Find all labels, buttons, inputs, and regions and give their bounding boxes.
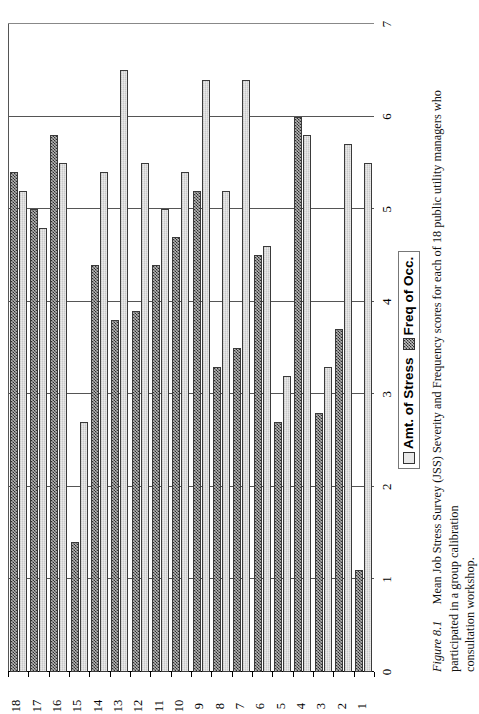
value-axis-label-4: 4 (379, 291, 395, 313)
category-axis-label-13: 13 (111, 693, 126, 714)
bar-freq-of-occ (10, 172, 18, 672)
bar-group (191, 24, 211, 672)
bar-group (293, 24, 313, 672)
bar-group (354, 24, 374, 672)
bar-group (69, 24, 89, 672)
value-axis-label-6: 6 (379, 106, 395, 128)
figure-caption-line2: consultation workshop. (462, 32, 479, 672)
bar-freq-of-occ (152, 265, 160, 672)
bar-freq-of-occ (335, 330, 343, 673)
bar-freq-of-occ (274, 422, 282, 672)
category-axis-label-18: 18 (9, 693, 24, 714)
bar-group (110, 24, 130, 672)
bar-freq-of-occ (233, 348, 241, 672)
bar-group (49, 24, 69, 672)
bar-group (150, 24, 170, 672)
rotated-figure-container: 01234567 123456789101112131415161718 Amt… (0, 0, 380, 714)
bar-amt-of-stress (181, 172, 189, 672)
category-tick (171, 672, 172, 677)
category-axis-label-9: 9 (192, 693, 207, 714)
bar-amt-of-stress (242, 80, 250, 672)
bar-amt-of-stress (344, 144, 352, 672)
bar-freq-of-occ (30, 209, 38, 672)
bar-group (272, 24, 292, 672)
bar-freq-of-occ (111, 320, 119, 672)
chart-legend: Amt. of Stress Freq of Occ. (398, 251, 420, 469)
value-axis-label-3: 3 (379, 383, 395, 405)
bar-group (232, 24, 252, 672)
category-axis-label-6: 6 (253, 693, 268, 714)
category-tick (130, 672, 131, 677)
bar-group (8, 24, 28, 672)
bar-freq-of-occ (213, 367, 221, 672)
category-tick (272, 672, 273, 677)
bar-group (28, 24, 48, 672)
legend-swatch-freq-icon (403, 338, 415, 350)
legend-label-freq: Freq of Occ. (401, 257, 416, 336)
bar-freq-of-occ (355, 570, 363, 672)
bar-amt-of-stress (263, 246, 271, 672)
category-axis-label-8: 8 (213, 693, 228, 714)
legend-item-stress: Amt. of Stress (401, 357, 416, 464)
bar-amt-of-stress (80, 422, 88, 672)
bar-freq-of-occ (91, 265, 99, 672)
category-tick (49, 672, 50, 677)
category-tick (110, 672, 111, 677)
category-tick (150, 672, 151, 677)
category-tick (333, 672, 334, 677)
bar-group (313, 24, 333, 672)
bar-amt-of-stress (100, 172, 108, 672)
category-tick (232, 672, 233, 677)
bar-amt-of-stress (59, 163, 67, 672)
category-axis-label-10: 10 (172, 693, 187, 714)
bar-chart (8, 24, 374, 672)
bar-freq-of-occ (193, 191, 201, 672)
bar-group (252, 24, 272, 672)
bar-amt-of-stress (283, 376, 291, 672)
bar-amt-of-stress (303, 135, 311, 672)
category-tick (28, 672, 29, 677)
category-tick (89, 672, 90, 677)
category-tick (211, 672, 212, 677)
figure-caption-line1: Mean Job Stress Survey (JSS) Severity an… (430, 90, 461, 672)
bar-freq-of-occ (294, 117, 302, 672)
bar-amt-of-stress (364, 163, 372, 672)
category-tick (354, 672, 355, 677)
value-axis-label-0: 0 (379, 661, 395, 683)
bar-freq-of-occ (71, 542, 79, 672)
bar-amt-of-stress (324, 367, 332, 672)
bar-amt-of-stress (222, 191, 230, 672)
bar-amt-of-stress (19, 191, 27, 672)
category-axis-label-5: 5 (274, 693, 289, 714)
bar-group (130, 24, 150, 672)
bar-group (211, 24, 231, 672)
legend-item-freq: Freq of Occ. (401, 257, 416, 351)
bar-freq-of-occ (132, 311, 140, 672)
category-tick (293, 672, 294, 677)
bar-group (89, 24, 109, 672)
category-tick (8, 672, 9, 677)
value-axis-label-2: 2 (379, 476, 395, 498)
category-axis-label-17: 17 (30, 693, 45, 714)
bar-amt-of-stress (202, 80, 210, 672)
bar-amt-of-stress (120, 70, 128, 672)
bar-freq-of-occ (315, 413, 323, 672)
category-axis-label-16: 16 (50, 693, 65, 714)
category-tick (191, 672, 192, 677)
category-axis-label-7: 7 (233, 693, 248, 714)
bar-freq-of-occ (172, 237, 180, 672)
category-tick (313, 672, 314, 677)
category-axis-label-14: 14 (91, 693, 106, 714)
bar-amt-of-stress (141, 163, 149, 672)
category-tick (374, 672, 375, 677)
bar-group (333, 24, 353, 672)
value-axis-label-5: 5 (379, 198, 395, 220)
bar-amt-of-stress (161, 209, 169, 672)
legend-swatch-stress-icon (403, 452, 415, 464)
category-axis-label-12: 12 (131, 693, 146, 714)
category-axis-label-2: 2 (335, 693, 350, 714)
bar-amt-of-stress (39, 228, 47, 672)
legend-label-stress: Amt. of Stress (401, 357, 416, 449)
category-axis-label-1: 1 (355, 693, 370, 714)
